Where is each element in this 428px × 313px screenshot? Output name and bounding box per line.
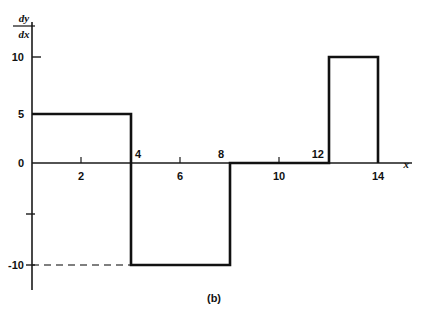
x-tick-label-12: 12 (312, 148, 324, 160)
derivative-step-chart: 10 5 0 -10 2 6 10 14 4 8 12 x dy dx (b) (0, 0, 428, 313)
x-tick-label-14: 14 (372, 170, 385, 182)
x-tick-label-8: 8 (218, 148, 224, 160)
y-axis-label-denominator: dx (19, 28, 31, 40)
x-tick-label-10: 10 (273, 170, 285, 182)
derivative-step-curve (32, 57, 378, 265)
y-tick-label-minus10: -10 (8, 259, 24, 271)
x-axis-label: x (403, 158, 410, 170)
figure-caption: (b) (207, 292, 221, 304)
y-axis-ticks (26, 57, 41, 265)
y-axis-label-numerator: dy (19, 12, 30, 24)
x-tick-label-6: 6 (177, 170, 183, 182)
y-tick-label-5: 5 (18, 108, 24, 120)
y-tick-label-0: 0 (18, 157, 24, 169)
x-tick-label-2: 2 (78, 170, 84, 182)
x-tick-label-4: 4 (135, 148, 142, 160)
y-tick-label-10: 10 (12, 51, 24, 63)
figure-panel: 10 5 0 -10 2 6 10 14 4 8 12 x dy dx (b) (0, 0, 428, 313)
